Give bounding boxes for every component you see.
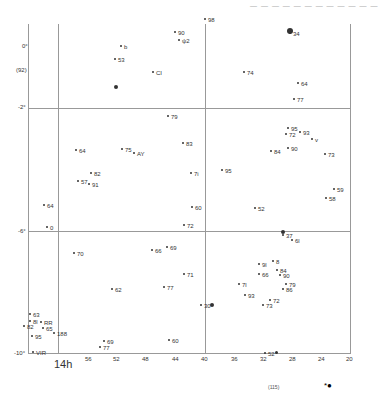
star — [42, 327, 44, 329]
star — [264, 352, 266, 354]
star — [90, 172, 92, 174]
star — [238, 283, 240, 285]
star-label: 77 — [103, 345, 110, 351]
star — [293, 98, 295, 100]
ra-tick: 36 — [231, 356, 238, 362]
star — [151, 249, 153, 251]
grid-line — [28, 24, 29, 354]
star-label: 82 — [27, 324, 34, 330]
ra-tick: 40 — [201, 356, 208, 362]
star-label: 93 — [248, 293, 255, 299]
star-label: 74 — [247, 70, 254, 76]
star-label: 73 — [328, 152, 335, 158]
star-label: 65 — [46, 326, 53, 332]
ra-tick: 56 — [85, 356, 92, 362]
star — [178, 39, 180, 41]
star — [183, 224, 185, 226]
ra-tick: 24 — [318, 356, 325, 362]
star-label: 64 — [47, 203, 54, 209]
ra-tick: 52 — [113, 356, 120, 362]
star-label: 86 — [286, 287, 293, 293]
star — [270, 150, 272, 152]
star — [191, 206, 193, 208]
star — [174, 31, 176, 33]
star — [23, 325, 25, 327]
footer-symbol: *● — [324, 381, 332, 390]
star-label: 188 — [57, 331, 67, 337]
star-label: 0 — [50, 225, 53, 231]
ra-tick: 20 — [346, 356, 353, 362]
star-label: 57 — [81, 179, 88, 185]
star — [221, 169, 223, 171]
star-label: 69 — [170, 245, 177, 251]
star — [244, 294, 246, 296]
star — [166, 246, 168, 248]
ra-tick: 48 — [142, 356, 149, 362]
star-label: 64 — [301, 81, 308, 87]
star — [121, 148, 123, 150]
star — [182, 142, 184, 144]
star — [31, 335, 33, 337]
page-label: (115) — [268, 384, 279, 390]
star-label: 72 — [289, 132, 296, 138]
star — [325, 197, 327, 199]
star-label: 91 — [92, 182, 99, 188]
star — [282, 234, 284, 236]
star-label: 75 — [125, 147, 132, 153]
star — [243, 71, 245, 73]
star-label: 60 — [172, 338, 179, 344]
star — [152, 71, 154, 73]
star-label: 93 — [303, 130, 310, 136]
star — [287, 147, 289, 149]
star-label: 82 — [94, 171, 101, 177]
star — [75, 149, 77, 151]
star-label: 73 — [266, 303, 273, 309]
ra-tick: 44 — [172, 356, 179, 362]
star-label: CI — [156, 70, 162, 76]
star — [120, 45, 122, 47]
star — [88, 183, 90, 185]
star-label: 8 — [276, 259, 279, 265]
dec-tick-6: -6° — [18, 228, 26, 234]
grid-line — [28, 231, 350, 232]
star — [43, 204, 45, 206]
star — [285, 283, 287, 285]
grid-line — [28, 353, 350, 354]
star — [254, 207, 256, 209]
star — [46, 226, 48, 228]
star-label: b — [124, 44, 127, 50]
star — [262, 304, 264, 306]
star-label: 7i — [194, 171, 199, 177]
star — [276, 269, 278, 271]
star — [279, 274, 281, 276]
star-label: 77 — [297, 97, 304, 103]
star — [167, 115, 169, 117]
star — [333, 188, 335, 190]
star-label: 58 — [329, 196, 336, 202]
star — [204, 18, 206, 20]
star — [272, 260, 274, 262]
star-label: 95 — [35, 334, 42, 340]
grid-line — [58, 24, 59, 354]
star-label: 30 — [204, 303, 211, 309]
star-label: 64 — [79, 148, 86, 154]
star — [111, 288, 113, 290]
bright-star — [275, 351, 278, 354]
star-label: 66 — [155, 248, 162, 254]
star — [258, 273, 260, 275]
ra-tick: 28 — [289, 356, 296, 362]
star-label: 71 — [187, 272, 194, 278]
star-label: v — [315, 137, 318, 143]
star — [311, 138, 313, 140]
star-label: 52 — [268, 351, 275, 357]
star — [258, 263, 260, 265]
star-label: 83 — [186, 141, 193, 147]
star — [269, 299, 271, 301]
star — [291, 239, 293, 241]
ra-tick: 32 — [260, 356, 267, 362]
star — [282, 288, 284, 290]
star — [289, 32, 291, 34]
star-label: 90 — [178, 30, 185, 36]
star — [73, 252, 75, 254]
star-label: 70 — [77, 251, 84, 257]
